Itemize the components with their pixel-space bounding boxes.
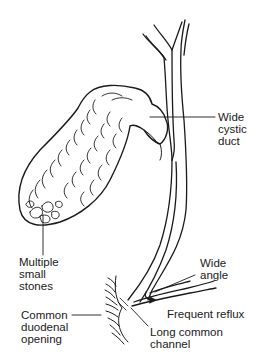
label-wide-angle: Wide angle — [200, 257, 228, 281]
label-wide-cystic-duct: Wide cystic duct — [218, 111, 247, 147]
label-multiple-small-stones: Multiple small stones — [19, 256, 59, 292]
common-bile-duct — [128, 160, 177, 302]
pancreatic-duct — [132, 281, 216, 306]
hepatic-duct — [143, 20, 189, 300]
stones — [26, 201, 62, 223]
label-common-duodenal-opening: Common duodenal opening — [21, 309, 68, 345]
label-long-common-channel: Long common channel — [150, 326, 223, 350]
leader-lines — [43, 117, 215, 326]
duodenal-wall — [105, 276, 128, 344]
gallbladder — [19, 85, 168, 225]
label-frequent-reflux: Frequent reflux — [167, 308, 244, 320]
